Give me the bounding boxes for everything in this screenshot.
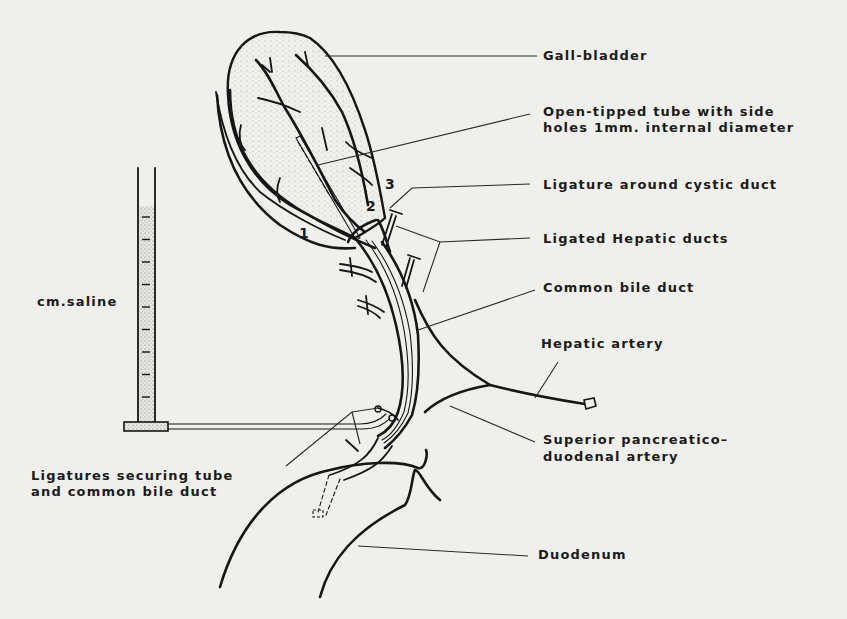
label-duodenum: Duodenum <box>538 547 627 563</box>
diagram: Gall-bladder Open-tipped tube with side … <box>0 0 847 619</box>
marker-2: 2 <box>366 198 376 214</box>
artery-cannula <box>584 398 596 409</box>
label-open-tube-1: Open-tipped tube with side <box>543 104 775 120</box>
marker-3: 3 <box>385 176 395 192</box>
label-gall-bladder: Gall-bladder <box>543 48 648 64</box>
label-ligature-cystic: Ligature around cystic duct <box>543 177 777 193</box>
label-open-tube-2: holes 1mm. internal diameter <box>543 120 794 136</box>
hepatic-artery <box>415 300 596 412</box>
label-common-bile-duct: Common bile duct <box>543 280 695 296</box>
anatomy-drawing <box>0 0 847 619</box>
label-manometer: cm.saline <box>37 294 118 310</box>
gall-bladder <box>228 32 385 238</box>
ligature-lower <box>346 440 358 451</box>
label-ligatures-securing-1: Ligatures securing tube <box>31 468 233 484</box>
label-sup-pancreatico-2: duodenal artery <box>543 449 679 465</box>
label-ligated-hepatic: Ligated Hepatic ducts <box>543 231 729 247</box>
manometer-base <box>124 422 168 431</box>
label-sup-pancreatico-1: Superior pancreatico– <box>543 432 729 448</box>
marker-1: 1 <box>299 225 309 241</box>
label-hepatic-artery: Hepatic artery <box>541 336 664 352</box>
label-ligatures-securing-2: and common bile duct <box>31 484 217 500</box>
duodenum-outline <box>220 450 440 597</box>
